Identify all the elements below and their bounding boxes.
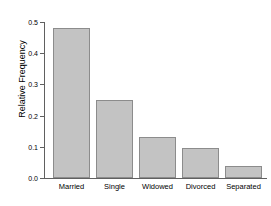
- bar: [225, 166, 262, 178]
- x-tick-label: Divorced: [186, 182, 216, 191]
- y-tick-label: 0.4: [28, 50, 38, 57]
- y-tick-label: 0.5: [28, 19, 38, 26]
- y-axis-line: [44, 22, 45, 178]
- x-tick-label: Separated: [226, 182, 261, 191]
- y-tick-label: 0.2: [28, 112, 38, 119]
- x-axis-line: [44, 178, 267, 179]
- x-tick-label: Widowed: [142, 182, 173, 191]
- y-tick-mark: [40, 53, 44, 54]
- y-tick-label: 0.3: [28, 81, 38, 88]
- y-tick-mark: [40, 147, 44, 148]
- y-axis-title: Relative Frequency: [17, 14, 27, 144]
- y-tick-mark: [40, 22, 44, 23]
- y-tick-mark: [40, 84, 44, 85]
- bar: [139, 137, 176, 178]
- y-tick-mark: [40, 116, 44, 117]
- bar: [182, 148, 219, 178]
- y-tick-label: 0.0: [28, 175, 38, 182]
- y-tick-label: 0.1: [28, 143, 38, 150]
- x-tick-label: Married: [59, 182, 84, 191]
- y-tick-mark: [40, 178, 44, 179]
- x-tick-label: Single: [104, 182, 125, 191]
- bar: [96, 100, 133, 178]
- plot-area: 0.00.10.20.30.40.5 MarriedSingleWidowedD…: [44, 18, 267, 178]
- bar: [53, 28, 90, 178]
- bar-chart: Relative Frequency 0.00.10.20.30.40.5 Ma…: [0, 0, 271, 206]
